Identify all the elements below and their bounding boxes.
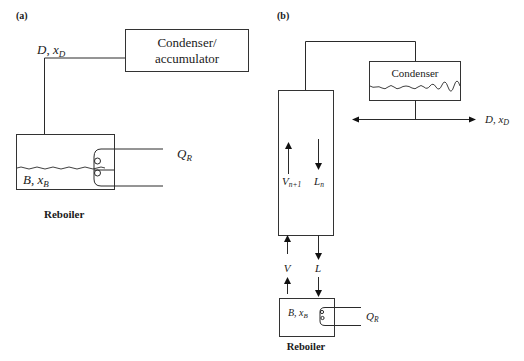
vapor-line-a <box>45 58 126 135</box>
distillation-diagram: (a) Condenser/ accumulator D, xD B, xB Q… <box>0 0 524 361</box>
panel-a: (a) Condenser/ accumulator D, xD B, xB Q… <box>16 10 249 220</box>
heat-duty-label-b: QR <box>366 310 379 324</box>
distillation-column <box>279 91 334 236</box>
heat-duty-label-a: QR <box>177 146 192 163</box>
distillate-label-b: D, xD <box>484 113 509 127</box>
liquid-label-b: L <box>314 262 321 274</box>
panel-b: (b) Condenser D, xD Vn+1 Ln <box>277 10 509 352</box>
reflux-arrow-icon <box>352 117 359 123</box>
reboiler-caption-b: Reboiler <box>287 341 326 352</box>
liquid-drain-arrow-icon <box>315 253 322 260</box>
condenser-label-b: Condenser <box>391 67 438 79</box>
distillate-arrow-icon <box>469 117 476 123</box>
panel-a-label: (a) <box>16 10 28 22</box>
vapor-return-arrow-icon <box>284 277 291 284</box>
condenser-accumulator-label-line2: accumulator <box>155 51 220 66</box>
liquid-drain-arrow-icon <box>315 290 322 297</box>
reboiler-caption-a: Reboiler <box>44 208 84 220</box>
vapor-label-b: V <box>284 262 292 274</box>
distillate-label-a: D, xD <box>36 42 66 59</box>
panel-b-label: (b) <box>277 10 289 22</box>
vapor-return-arrow-icon <box>284 235 291 242</box>
condenser-accumulator-label-line1: Condenser/ <box>157 35 217 50</box>
